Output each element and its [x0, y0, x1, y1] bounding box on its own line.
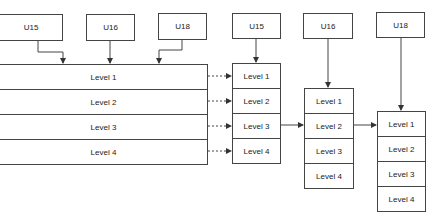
u15-level-3: Level 3	[233, 114, 280, 139]
level-label: Level 3	[244, 122, 270, 131]
source-box-u18: U18	[158, 13, 207, 40]
column-header-u15: U15	[232, 13, 281, 39]
column-header-u16: U16	[303, 13, 353, 39]
level-label: Level 2	[91, 98, 117, 107]
u18-level-3: Level 3	[378, 162, 425, 187]
u16-level-1: Level 1	[305, 89, 353, 114]
u18-level-4: Level 4	[378, 187, 425, 211]
level-label: Level 3	[389, 170, 415, 179]
u16-level-4: Level 4	[305, 164, 353, 188]
column-header-u18: U18	[376, 12, 425, 38]
column-stack-u16: Level 1 Level 2 Level 3 Level 4	[304, 88, 354, 189]
header-label: U16	[321, 22, 336, 31]
level-label: Level 4	[244, 147, 270, 156]
shared-level-4: Level 4	[0, 140, 207, 164]
source-label: U18	[175, 22, 190, 31]
level-label: Level 1	[244, 72, 270, 81]
u16-level-2: Level 2	[305, 114, 353, 139]
source-label: U15	[24, 23, 39, 32]
source-label: U16	[103, 23, 118, 32]
level-label: Level 1	[316, 97, 342, 106]
level-label: Level 3	[316, 147, 342, 156]
u18-level-1: Level 1	[378, 112, 425, 137]
level-label: Level 1	[389, 120, 415, 129]
level-label: Level 1	[91, 73, 117, 82]
column-stack-u15: Level 1 Level 2 Level 3 Level 4	[232, 63, 281, 164]
level-label: Level 2	[316, 122, 342, 131]
level-label: Level 2	[389, 145, 415, 154]
u18-level-2: Level 2	[378, 137, 425, 162]
level-label: Level 4	[389, 195, 415, 204]
u15-level-1: Level 1	[233, 64, 280, 89]
source-box-u16: U16	[86, 14, 135, 41]
shared-level-1: Level 1	[0, 65, 207, 90]
level-label: Level 3	[91, 123, 117, 132]
shared-level-stack: Level 1 Level 2 Level 3 Level 4	[0, 64, 208, 165]
source-box-u15: U15	[0, 14, 63, 41]
shared-level-3: Level 3	[0, 115, 207, 140]
u15-level-2: Level 2	[233, 89, 280, 114]
level-label: Level 2	[244, 97, 270, 106]
header-label: U18	[393, 21, 408, 30]
column-stack-u18: Level 1 Level 2 Level 3 Level 4	[377, 111, 426, 212]
u15-level-4: Level 4	[233, 139, 280, 163]
shared-level-2: Level 2	[0, 90, 207, 115]
header-label: U15	[249, 22, 264, 31]
level-label: Level 4	[91, 148, 117, 157]
level-label: Level 4	[316, 172, 342, 181]
u16-level-3: Level 3	[305, 139, 353, 164]
